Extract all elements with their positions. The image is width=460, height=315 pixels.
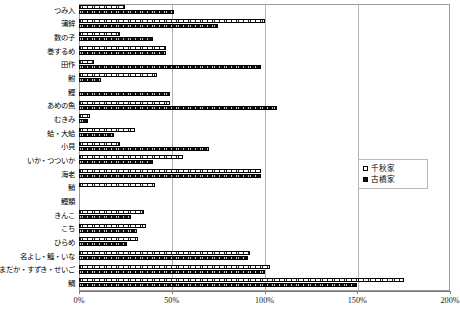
category-label: 田作 [61,62,75,69]
bar-senshuke [79,19,265,23]
bar-furuhashike [79,133,114,137]
category-label: 数の子 [54,34,75,41]
category-row: つみ入 [0,4,452,18]
x-tick-label: 0% [74,296,85,305]
bar-furuhashike [79,270,265,274]
category-row: あめの魚 [0,100,452,114]
category-label: 蛤・大蛤 [47,130,75,137]
category-row: 名よし・鯔・いな [0,250,452,264]
bar-senshuke [79,46,166,50]
bar-senshuke [79,155,183,159]
bar-senshuke [79,114,90,118]
bar-senshuke [79,5,125,9]
bar-senshuke [79,60,94,64]
filled-square-icon [363,177,368,182]
bar-furuhashike [79,92,170,96]
row-bars [79,127,450,141]
category-row: こち [0,223,452,237]
bar-senshuke [79,210,144,214]
category-label: むきみ [54,116,75,123]
row-bars [79,250,450,264]
bar-furuhashike [79,215,131,219]
x-tick [357,291,358,294]
x-tick-label: 150% [348,296,367,305]
category-label: あめの魚 [47,103,75,110]
x-tick [172,291,173,294]
x-tick-label: 100% [255,296,274,305]
bar-furuhashike [79,242,127,246]
row-bars [79,31,450,45]
bar-senshuke [79,224,146,228]
row-bars [79,141,450,155]
bar-furuhashike [79,106,277,110]
category-label: 小貝 [61,144,75,151]
bar-furuhashike [79,283,357,287]
category-label: 鰹 [68,89,75,96]
x-tick-label: 50% [164,296,179,305]
bar-furuhashike [79,147,209,151]
bar-furuhashike [79,24,218,28]
cropped-header-strip [250,0,450,3]
bar-furuhashike [79,51,166,55]
category-row: むきみ [0,113,452,127]
bar-senshuke [79,32,120,36]
row-bars [79,223,450,237]
bar-senshuke [79,278,404,282]
row-bars [79,4,450,18]
category-label: 名よし・鯔・いな [20,253,75,260]
bar-furuhashike [79,37,153,41]
x-tick-label: 200% [440,296,459,305]
category-row: きんこ [0,209,452,223]
bar-senshuke [79,237,138,241]
category-row: 鯛 [0,277,452,291]
bar-senshuke [79,169,261,173]
bar-senshuke [79,265,270,269]
row-bars [79,209,450,223]
x-tick [450,291,451,294]
category-label: ひらめ [54,239,75,246]
bar-senshuke [79,101,170,105]
row-bars [79,113,450,127]
bar-furuhashike [79,229,137,233]
legend-label-sen: 千秋家 [371,163,395,174]
bar-senshuke [79,73,157,77]
row-bars [79,100,450,114]
category-label: 鮒 [68,75,75,82]
row-bars [79,86,450,100]
category-label: 鰹類 [61,198,75,205]
chart-legend: 千秋家 古橋家 [358,159,428,189]
bar-senshuke [79,251,250,255]
category-row: 数の子 [0,31,452,45]
category-label: 鯛 [68,280,75,287]
bar-senshuke [79,142,120,146]
x-tick [79,291,80,294]
x-tick [265,291,266,294]
category-label: きんこ [54,212,75,219]
category-label: 蒲鉾 [61,21,75,28]
category-row: 巻するめ [0,45,452,59]
legend-item-furu: 古橋家 [363,174,423,185]
category-row: 鮒 [0,72,452,86]
category-row: 田作 [0,59,452,73]
category-row: 鰹類 [0,195,452,209]
category-label: こち [61,226,75,233]
bar-furuhashike [79,65,261,69]
row-bars [79,45,450,59]
row-bars [79,264,450,278]
category-row: まだか・すずき・せいご [0,264,452,278]
legend-item-sen: 千秋家 [363,163,423,174]
row-bars [79,195,450,209]
bar-furuhashike [79,160,153,164]
row-bars [79,18,450,32]
row-bars [79,72,450,86]
bar-furuhashike [79,10,174,14]
open-square-icon [363,166,368,171]
row-bars [79,277,450,291]
category-row: 蒲鉾 [0,18,452,32]
bar-furuhashike [79,256,248,260]
category-label: つみ入 [54,7,75,14]
row-bars [79,59,450,73]
row-bars [79,236,450,250]
category-rows: つみ入蒲鉾数の子巻するめ田作鮒鰹あめの魚むきみ蛤・大蛤小貝いか・つついか海老鮹鰹… [0,4,452,291]
